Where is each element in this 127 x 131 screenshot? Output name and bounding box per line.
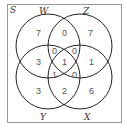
region-z-only: 7	[88, 28, 93, 38]
set-w-label: W	[39, 6, 49, 16]
region-w-z-y: 0	[52, 46, 57, 56]
region-z-x: 1	[89, 57, 94, 67]
set-y-label: Y	[40, 112, 47, 122]
region-w-z-x: 0	[72, 46, 77, 56]
region-w-y: 3	[36, 57, 41, 67]
region-all: 1	[62, 57, 67, 67]
universe-label: S	[10, 5, 16, 15]
set-z-label: Z	[82, 6, 90, 16]
region-y-only: 3	[36, 86, 41, 96]
region-w-z: 0	[62, 28, 67, 38]
region-x-only: 6	[89, 86, 94, 96]
region-w-only: 7	[36, 28, 41, 38]
region-y-x: 2	[62, 86, 67, 96]
region-z-y-x: 0	[72, 70, 77, 80]
venn-diagram: S W Z Y X 7 0 7 0 0 3 1 1 1 0 3 2 6	[0, 0, 127, 131]
set-x-label: X	[83, 112, 91, 122]
region-w-y-x: 1	[52, 70, 57, 80]
